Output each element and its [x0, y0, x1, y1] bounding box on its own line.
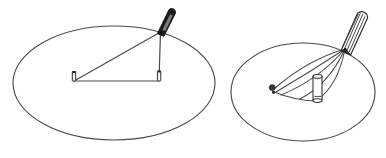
left-pin	[72, 71, 75, 81]
right-pin	[157, 71, 160, 81]
upright-cylinder-peg	[313, 75, 322, 103]
canvas-background	[0, 0, 386, 158]
drawing-stage: Two-panel line drawing of a stylus on an…	[0, 0, 386, 158]
figure-canvas: Two-panel line drawing of a stylus on an…	[0, 0, 386, 158]
